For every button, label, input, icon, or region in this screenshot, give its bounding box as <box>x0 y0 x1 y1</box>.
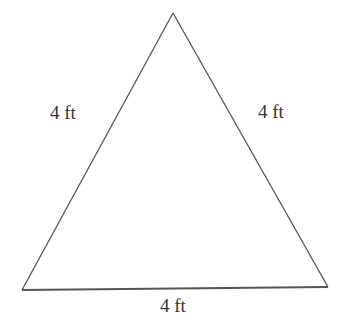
right-side-label: 4 ft <box>258 102 284 121</box>
left-side-label: 4 ft <box>50 103 76 122</box>
bottom-side-label: 4 ft <box>160 296 186 315</box>
triangle-diagram <box>0 0 347 332</box>
right-side <box>173 13 328 287</box>
left-side <box>22 13 173 290</box>
bottom-side <box>22 287 328 290</box>
